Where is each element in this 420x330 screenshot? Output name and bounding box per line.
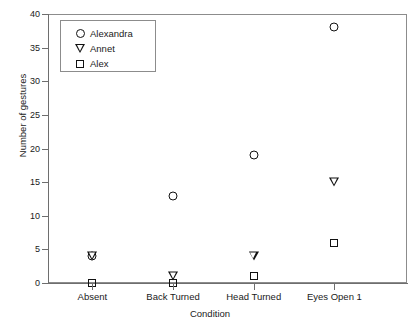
- legend-item-label: Alex: [90, 58, 108, 69]
- triangle-down-marker-icon: [249, 252, 259, 261]
- legend-item-label: Alexandra: [90, 28, 133, 39]
- y-axis-tick: [42, 48, 48, 49]
- legend-symbol: [70, 29, 90, 38]
- x-axis-tick: [254, 284, 255, 290]
- data-point: [249, 252, 259, 261]
- circle-marker-icon: [330, 23, 339, 32]
- y-axis-tick-label: 40: [30, 10, 40, 19]
- x-axis-tick: [173, 284, 174, 290]
- legend-item: Alexandra: [61, 26, 155, 41]
- data-point: [330, 23, 339, 32]
- legend-item-label: Annet: [90, 43, 115, 54]
- x-axis-tick: [334, 284, 335, 290]
- x-axis-tick: [92, 284, 93, 290]
- x-axis-tick-label: Back Turned: [146, 291, 199, 302]
- y-axis-tick: [42, 216, 48, 217]
- data-point: [330, 239, 338, 247]
- triangle-down-marker-icon: [75, 44, 85, 53]
- data-point: [169, 191, 178, 200]
- circle-marker-icon: [249, 151, 258, 160]
- legend-item: Alex: [61, 56, 155, 71]
- y-axis-tick: [42, 115, 48, 116]
- x-axis-title: Condition: [0, 308, 420, 319]
- circle-marker-icon: [76, 29, 85, 38]
- square-marker-icon: [250, 272, 258, 280]
- square-marker-icon: [76, 60, 84, 68]
- y-axis-tick-label: 15: [30, 178, 40, 187]
- legend-symbol: [70, 44, 90, 53]
- y-axis-tick-label: 35: [30, 43, 40, 52]
- y-axis-tick: [42, 249, 48, 250]
- y-axis-tick-label: 5: [35, 245, 40, 254]
- triangle-down-marker-icon: [87, 252, 97, 261]
- x-axis-tick-label: Head Turned: [226, 291, 281, 302]
- y-axis-tick-label: 25: [30, 110, 40, 119]
- data-point: [87, 252, 97, 261]
- data-point: [249, 151, 258, 160]
- legend-item: Annet: [61, 41, 155, 56]
- data-point: [250, 272, 258, 280]
- y-axis-tick: [42, 182, 48, 183]
- y-axis-tick: [42, 81, 48, 82]
- y-axis-line: [48, 14, 49, 284]
- legend-symbol: [70, 60, 90, 68]
- y-axis-title: Number of gestures: [17, 36, 28, 196]
- y-axis-tick-label: 0: [35, 279, 40, 288]
- square-marker-icon: [330, 239, 338, 247]
- y-axis-tick: [42, 14, 48, 15]
- y-axis-tick-label: 10: [30, 211, 40, 220]
- triangle-down-marker-icon: [329, 178, 339, 187]
- y-axis-tick: [42, 149, 48, 150]
- x-axis-line: [48, 283, 408, 284]
- x-axis-tick-label: Eyes Open 1: [307, 291, 362, 302]
- x-axis-tick-label: Absent: [78, 291, 108, 302]
- y-axis-tick: [42, 283, 48, 284]
- scatter-chart: 0510152025303540 Number of gestures Cond…: [0, 0, 420, 330]
- y-axis-tick-label: 30: [30, 77, 40, 86]
- data-point: [329, 178, 339, 187]
- circle-marker-icon: [169, 191, 178, 200]
- chart-legend: AlexandraAnnetAlex: [60, 20, 156, 72]
- y-axis-tick-label: 20: [30, 144, 40, 153]
